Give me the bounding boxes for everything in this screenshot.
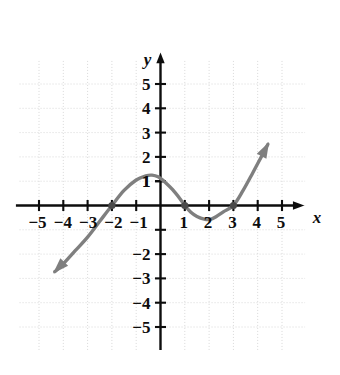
y-axis-arrowhead [156,52,164,63]
y-tick-label: −3 [132,269,150,288]
x-tick-label: 4 [252,213,261,232]
curve-arrowhead-end [257,142,269,159]
y-tick-label: 1 [142,172,151,191]
x-tick-label: −3 [79,213,97,232]
x-tick-label: 5 [277,213,286,232]
x-tick-label: −4 [54,213,73,232]
y-tick-label: −4 [132,294,151,313]
intercept-point [181,202,188,209]
x-tick-label: 1 [180,213,189,232]
x-tick-label: −5 [28,213,46,232]
coordinate-plane: −5−4−3−2−11234554321−2−3−4−51yx [0,0,340,375]
y-tick-label: 5 [142,75,151,94]
intercept-point [230,202,237,209]
y-tick-label: 2 [142,148,151,167]
x-axis-label: x [312,208,322,227]
graph-figure: −5−4−3−2−11234554321−2−3−4−51yx [0,0,340,375]
x-tick-label: 2 [204,213,213,232]
x-tick-label: −2 [104,213,122,232]
y-tick-label: −5 [132,318,150,337]
x-axis-arrowhead [293,201,304,209]
y-tick-label: 3 [142,124,151,143]
intercept-point [108,202,115,209]
y-tick-label: 4 [142,99,151,118]
x-tick-label: −1 [130,213,148,232]
y-axis-label: y [142,50,152,69]
x-tick-label: 3 [228,213,237,232]
axes [16,52,304,350]
y-tick-label: −2 [132,245,150,264]
